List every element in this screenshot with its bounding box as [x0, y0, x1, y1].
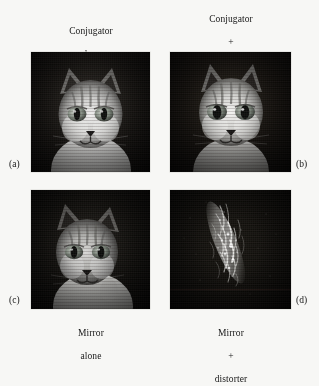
panel-a-conjugator-alone: [31, 52, 150, 172]
caption-mirror-plus-distorter: Mirror + distorter: [180, 316, 282, 386]
panel-letter-a: (a): [9, 159, 20, 169]
cat-photo-a: [31, 52, 150, 172]
cat-photo-c: [31, 190, 150, 309]
caption-line: +: [180, 37, 282, 49]
speckle-pattern-d: [170, 190, 291, 309]
caption-line: Mirror: [40, 328, 142, 340]
caption-line: +: [180, 351, 282, 363]
caption-line: Mirror: [180, 328, 282, 340]
cat-photo-b: [170, 52, 291, 172]
panel-letter-c: (c): [9, 295, 20, 305]
panel-b-conjugator-plus-distorter: [170, 52, 291, 172]
caption-mirror-alone: Mirror alone: [40, 316, 142, 374]
panel-letter-d: (d): [296, 295, 307, 305]
panel-d-mirror-plus-distorter: [170, 190, 291, 309]
caption-line: Conjugator: [40, 26, 142, 38]
caption-line: alone: [40, 351, 142, 363]
panel-c-mirror-alone: [31, 190, 150, 309]
caption-line: distorter: [180, 374, 282, 386]
panel-letter-b: (b): [296, 159, 307, 169]
caption-line: Conjugator: [180, 14, 282, 26]
